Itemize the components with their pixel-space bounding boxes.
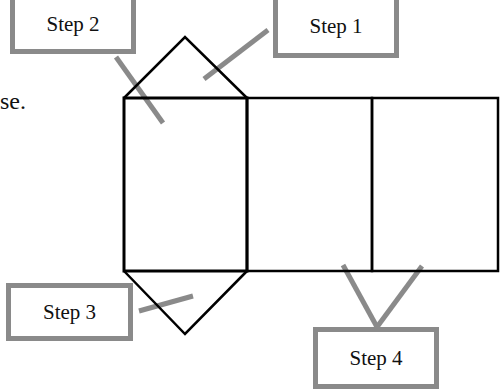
rect-face-3 [372, 98, 498, 271]
leader-step4-right [377, 266, 422, 327]
label-step4: Step 4 [313, 327, 439, 389]
label-step2: Step 2 [10, 0, 136, 54]
top-triangle [124, 37, 247, 98]
rect-face-1 [124, 98, 247, 271]
leader-step4-left [343, 265, 377, 327]
bottom-triangle [124, 271, 247, 334]
text-fragment: se. [0, 88, 26, 115]
label-step1: Step 1 [273, 0, 399, 58]
rect-face-2 [247, 98, 372, 271]
label-step3: Step 3 [6, 283, 133, 341]
leader-step1 [204, 30, 268, 79]
leader-step3 [139, 296, 193, 311]
